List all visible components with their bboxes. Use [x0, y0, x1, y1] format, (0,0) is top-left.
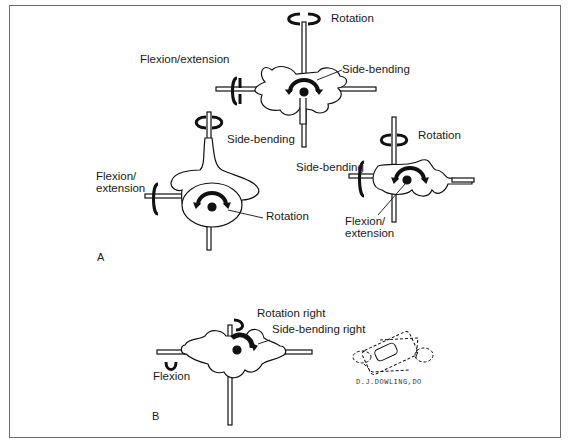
label-side-bending-right: Side-bending right — [272, 323, 365, 336]
label-rotation-top: Rotation — [331, 12, 374, 25]
top-vertebra-drawing — [216, 14, 376, 147]
label-flexion-b: Flexion — [153, 370, 190, 383]
label-rotation-right: Rotation right — [257, 307, 325, 320]
label-rotation-lateral: Rotation — [418, 129, 461, 142]
label-flexion-superior-line2: extension — [96, 182, 145, 195]
label-flexion-lateral-line2: extension — [345, 227, 394, 240]
label-side-bending-top: Side-bending — [342, 63, 410, 76]
label-side-bending-lateral: Side-bending — [296, 161, 364, 174]
label-flexion-extension-top: Flexion/extension — [140, 53, 230, 66]
panel-label-a: A — [97, 251, 104, 263]
sketch-drawing — [353, 330, 433, 376]
label-side-bending-superior: Side-bending — [227, 133, 295, 146]
signature: D.J.DOWLING,DO — [356, 378, 422, 386]
panel-label-b: B — [152, 410, 159, 422]
label-rotation-superior: Rotation — [266, 210, 309, 223]
